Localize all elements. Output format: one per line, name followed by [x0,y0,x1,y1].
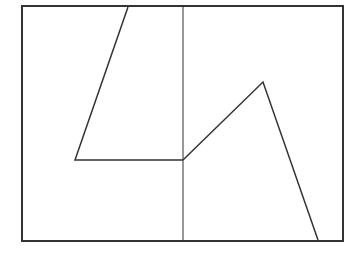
left-path [75,7,183,160]
right-path [183,82,318,240]
line-diagram [0,0,357,258]
